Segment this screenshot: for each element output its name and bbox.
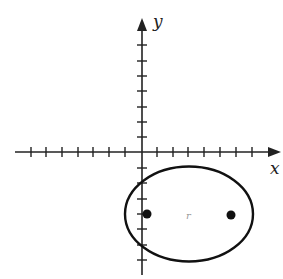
x-axis-arrow-icon [268,147,281,157]
y-axis-label: y [152,11,163,31]
coordinate-plane-figure: y x r [0,0,283,279]
x-axis-label: x [270,158,280,178]
focus-point-left [143,210,152,219]
stray-mark: r [186,210,192,221]
focus-point-right [227,211,236,220]
y-axis-arrow-icon [137,18,147,31]
